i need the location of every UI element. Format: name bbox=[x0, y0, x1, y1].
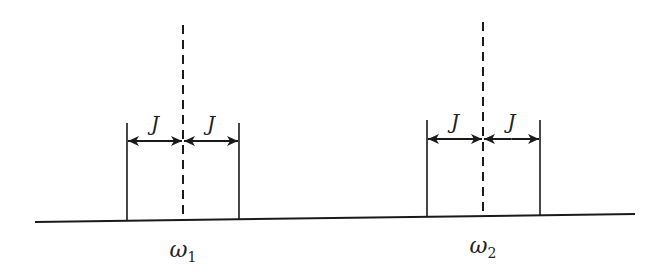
j-label-left: J bbox=[147, 112, 160, 136]
splitting-diagram: J J ω1 J J ω2 bbox=[0, 0, 662, 277]
line-group-2: J J ω2 bbox=[427, 22, 540, 261]
frequency-label: ω2 bbox=[470, 233, 497, 261]
j-label-right: J bbox=[203, 112, 216, 136]
line-group-1: J J ω1 bbox=[127, 25, 239, 265]
frequency-axis bbox=[35, 214, 635, 222]
j-label-left: J bbox=[447, 110, 460, 134]
frequency-label: ω1 bbox=[170, 237, 197, 265]
j-label-right: J bbox=[503, 110, 516, 134]
